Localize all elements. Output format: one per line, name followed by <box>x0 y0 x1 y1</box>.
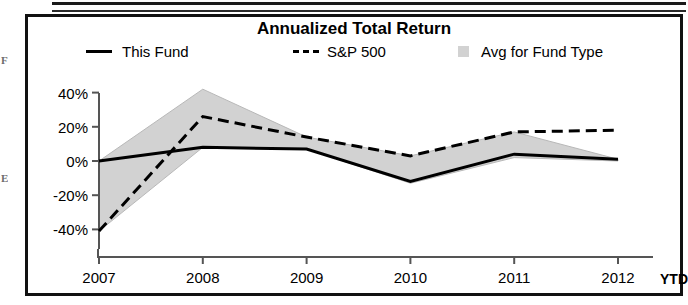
x-axis-ytd-label: YTD <box>660 271 688 287</box>
x-tick-label: 2009 <box>272 269 342 286</box>
page-rule-top-2 <box>52 10 686 12</box>
avg-fund-type-band <box>99 89 618 231</box>
x-tick-label: 2007 <box>64 269 134 286</box>
page-edge-fragment-1: F <box>1 54 7 66</box>
chart-panel: Annualized Total Return This Fund S&P 50… <box>25 14 683 296</box>
y-tick-label: -40% <box>36 221 88 238</box>
chart-svg <box>28 17 686 299</box>
y-tick-label: 0% <box>36 153 88 170</box>
x-tick-label: 2008 <box>168 269 238 286</box>
y-tick-label: 20% <box>36 118 88 135</box>
page-edge-fragment-2: E <box>1 172 7 184</box>
x-tick-label: 2010 <box>375 269 445 286</box>
y-tick-label: -20% <box>36 187 88 204</box>
page-rule-top <box>52 2 686 5</box>
plot-area: 40%20%0%-20%-40% 20072008200920102011201… <box>28 17 686 299</box>
y-tick-label: 40% <box>36 84 88 101</box>
x-tick-label: 2012 <box>583 269 653 286</box>
x-tick-label: 2011 <box>479 269 549 286</box>
